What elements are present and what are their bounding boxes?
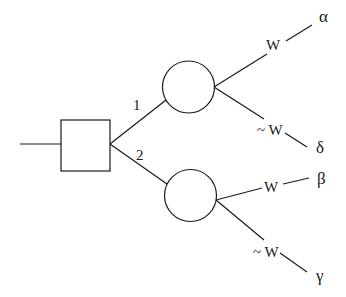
outcome-gamma: γ [315, 266, 324, 285]
node-2-notw-label: ~ W [253, 244, 280, 260]
gamma-edge [280, 253, 307, 272]
chance-node-1-circle [163, 61, 215, 113]
node-2-w-edge [216, 188, 262, 200]
node-2-notw-edge [216, 200, 264, 240]
chance-node-2-circle [165, 170, 217, 222]
decision-tree-diagram: 1 2 W α ~ W δ W β ~ W γ [0, 0, 346, 297]
node-1-w-edge [214, 54, 267, 87]
node-1-notw-label: ~ W [257, 122, 284, 138]
outcome-delta: δ [316, 138, 324, 157]
alpha-edge [286, 25, 312, 41]
node-1-w-label: W [266, 37, 281, 53]
branch-2-label: 2 [136, 147, 144, 163]
node-2-w-label: W [264, 179, 279, 195]
decision-node-square [61, 120, 110, 171]
delta-edge [285, 133, 307, 147]
beta-edge [283, 178, 309, 184]
node-1-notw-edge [214, 87, 264, 119]
outcome-beta: β [317, 169, 326, 188]
outcome-alpha: α [319, 7, 328, 26]
branch-1-label: 1 [133, 97, 141, 113]
